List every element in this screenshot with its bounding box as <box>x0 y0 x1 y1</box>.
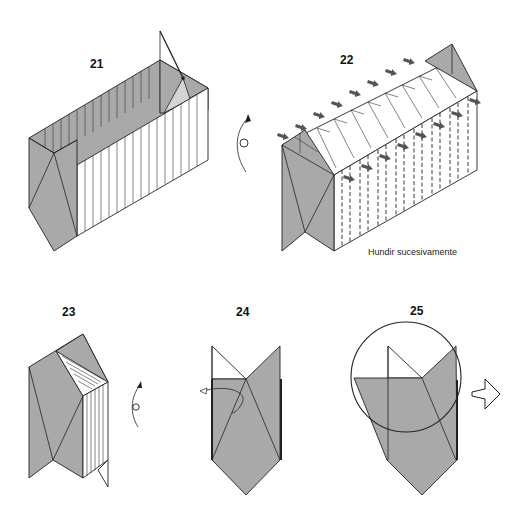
push-arrow-icon <box>313 112 325 119</box>
push-arrow-icon <box>367 80 379 87</box>
step-number-21: 21 <box>90 57 104 71</box>
push-arrow-icon <box>349 90 361 97</box>
step-25: 25 <box>351 304 500 495</box>
push-arrow-icon <box>403 58 415 65</box>
step-21: 21 <box>29 31 251 251</box>
step-number-23: 23 <box>62 305 76 319</box>
step-number-24: 24 <box>236 305 250 319</box>
step-number-22: 22 <box>340 53 354 67</box>
white-top-triangle <box>212 346 246 379</box>
turn-over-icon <box>237 114 251 172</box>
step-24: 24 <box>200 305 281 495</box>
step-number-25: 25 <box>410 304 424 318</box>
instruction-caption: Hundir sucesivamente <box>368 247 457 257</box>
pleat-stack <box>83 382 108 487</box>
step-23: 23 <box>29 305 142 487</box>
origami-diagram: 21 <box>0 0 529 530</box>
flap-pivot <box>181 76 185 80</box>
white-top-triangle <box>388 346 422 378</box>
push-arrow-icon <box>277 133 289 140</box>
next-view-arrow-icon <box>472 379 500 409</box>
push-arrow-icon <box>331 101 343 108</box>
turn-over-icon <box>132 381 142 427</box>
step-22: 22 <box>277 44 481 257</box>
push-arrow-icon <box>385 69 397 76</box>
